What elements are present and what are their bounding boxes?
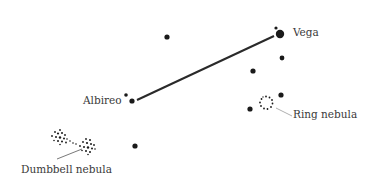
star <box>164 34 169 39</box>
ring-nebula-leader <box>276 108 292 116</box>
star-chart-svg: Vega Albireo Ring nebula <box>0 0 381 187</box>
vega-label: Vega <box>292 26 319 38</box>
star-chart: Vega Albireo Ring nebula <box>0 0 381 187</box>
star <box>280 56 285 61</box>
albireo-star <box>129 98 134 103</box>
star <box>247 106 252 111</box>
dumbbell-nebula-leader <box>57 149 82 159</box>
dumbbell-nebula-label: Dumbbell nebula <box>21 163 112 175</box>
ring-nebula-label: Ring nebula <box>293 108 357 120</box>
vega-companion-star <box>274 26 277 29</box>
star <box>132 143 137 148</box>
star <box>250 68 255 73</box>
albireo-label: Albireo <box>82 94 122 106</box>
albireo-vega-line <box>137 36 274 100</box>
dumbbell-nebula <box>51 129 96 155</box>
vega-star <box>276 30 284 38</box>
albireo-companion-star <box>124 93 128 97</box>
ring-nebula <box>259 96 273 110</box>
star <box>278 92 283 97</box>
